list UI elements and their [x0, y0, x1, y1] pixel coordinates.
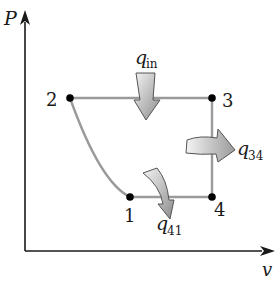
- q-in-arrow-icon: [134, 73, 160, 120]
- state-label-4: 4: [214, 199, 225, 220]
- svg-text:41: 41: [167, 224, 182, 238]
- svg-text:34: 34: [248, 149, 264, 163]
- q-34-label: q 34: [237, 137, 264, 163]
- y-axis-label: P: [3, 7, 18, 29]
- y-axis: [20, 10, 30, 251]
- state-point-1: [126, 193, 134, 201]
- state-point-3: [208, 94, 216, 102]
- x-axis: [25, 246, 275, 256]
- state-point-2: [66, 94, 74, 102]
- state-label-1: 1: [124, 205, 135, 226]
- state-label-2: 2: [46, 89, 57, 110]
- q-in-label: q in: [135, 46, 158, 71]
- svg-text:in: in: [146, 57, 158, 71]
- x-axis-arrowhead-icon: [260, 246, 275, 256]
- state-label-3: 3: [222, 90, 233, 111]
- q-34-arrow-icon: [186, 129, 235, 162]
- process-1-2-curve: [70, 98, 130, 197]
- pv-diagram: P v 2 3 4 1 q in q 34 q 41: [0, 0, 276, 285]
- x-axis-label: v: [262, 259, 272, 280]
